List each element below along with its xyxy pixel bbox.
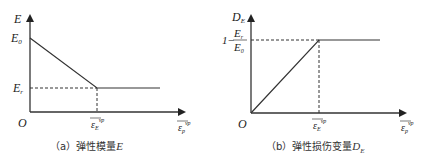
panel-a-origin: O (18, 116, 27, 130)
panel-b-x-axis-label: εpvp (400, 120, 414, 134)
panel-b-tick-break: εEvp (312, 118, 326, 132)
panel-a-curve (30, 38, 160, 88)
svg-text:Er: Er (233, 27, 244, 40)
svg-text:εpvp: εpvp (401, 120, 414, 134)
svg-text:εEvp: εEvp (313, 118, 326, 132)
panel-b-tick-top: 1− Er E0 (222, 27, 247, 54)
panel-b-chart: DE 1− Er E0 O εEvp εpvp (222, 10, 414, 134)
panel-b-y-axis-label: DE (231, 10, 246, 25)
svg-text:1−: 1− (222, 34, 235, 46)
svg-text:E0: E0 (233, 41, 244, 54)
svg-text:εEvp: εEvp (91, 117, 104, 131)
panel-a-tick-break: εEvp (90, 117, 104, 131)
panel-b-caption: （b）弹性损伤变量DE (266, 138, 365, 155)
panel-a-caption: （a）弹性模量E (50, 138, 123, 153)
panel-a-tick-e0: E0 (10, 31, 22, 46)
panel-a-x-axis-label: εpvp (177, 120, 191, 134)
panel-a-y-axis-label: E (13, 12, 22, 26)
panel-a-chart: E E0 Er O εEvp εpvp (10, 12, 191, 134)
panel-a-tick-er: Er (12, 81, 23, 96)
svg-text:εpvp: εpvp (178, 120, 191, 134)
panel-b-origin: O (238, 117, 247, 131)
panel-b-curve (251, 40, 380, 113)
